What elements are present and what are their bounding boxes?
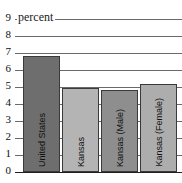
- plot-area: United StatesKansasKansas (Male)Kansas (…: [0, 0, 182, 183]
- bar[interactable]: United States: [23, 56, 60, 172]
- bar-category-label: Kansas: [76, 137, 85, 167]
- bar[interactable]: Kansas (Male): [101, 90, 138, 172]
- bar-chart: 0123456789 percent United StatesKansasKa…: [0, 0, 182, 183]
- bar-category-label: Kansas (Female): [154, 98, 163, 167]
- bar-category-label: United States: [37, 113, 46, 167]
- bar[interactable]: Kansas (Female): [140, 84, 177, 172]
- bar[interactable]: Kansas: [62, 88, 99, 172]
- bar-category-label: Kansas (Male): [115, 109, 124, 167]
